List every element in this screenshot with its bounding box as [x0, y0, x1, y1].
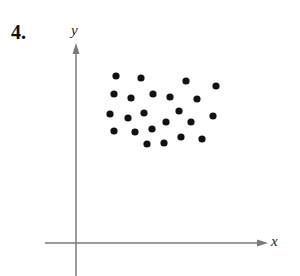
- data-point: [110, 127, 117, 134]
- data-point: [106, 110, 113, 117]
- data-point: [124, 114, 131, 121]
- data-point: [137, 74, 144, 81]
- y-axis-arrow-icon: [73, 43, 80, 54]
- scatter-figure: 4. y x: [0, 0, 300, 276]
- data-point: [148, 125, 155, 132]
- data-point: [175, 107, 182, 114]
- data-point: [209, 112, 216, 119]
- axes: [45, 43, 268, 276]
- data-point: [160, 139, 167, 146]
- data-point: [212, 82, 219, 89]
- data-point: [166, 93, 173, 100]
- plot-area: [0, 0, 300, 276]
- data-point: [127, 94, 134, 101]
- data-point: [112, 72, 119, 79]
- data-points: [106, 72, 219, 147]
- data-point: [110, 90, 117, 97]
- data-point: [143, 140, 150, 147]
- data-point: [177, 133, 184, 140]
- data-point: [198, 135, 205, 142]
- x-axis-arrow-icon: [257, 240, 268, 247]
- data-point: [131, 128, 138, 135]
- data-point: [187, 118, 194, 125]
- data-point: [140, 109, 147, 116]
- data-point: [182, 77, 189, 84]
- data-point: [149, 90, 156, 97]
- data-point: [162, 118, 169, 125]
- data-point: [193, 95, 200, 102]
